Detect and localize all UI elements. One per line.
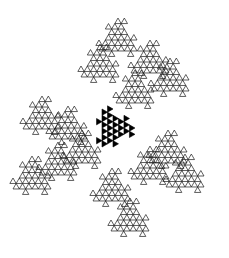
outline-tile [90,168,131,206]
outline-tile [108,198,149,236]
fractal-tiling-figure [0,0,229,258]
central-filled-tile [97,106,135,147]
filled-center-tile [97,106,135,147]
outline-tile [113,70,154,108]
outline-tiles [10,18,204,236]
outline-tile [148,58,189,96]
outline-tile [96,18,137,56]
outline-tile [163,154,204,192]
outline-tile [36,142,77,180]
outline-tile [78,44,119,82]
